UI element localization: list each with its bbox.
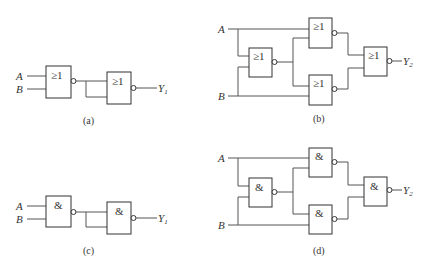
input-a-label: A <box>217 152 225 164</box>
caption-a: (a) <box>83 115 94 127</box>
logic-diagrams: A B ≥1 ≥1 Y1 (a) A B ≥1 ≥1 ≥1 <box>0 0 425 269</box>
gate-symbol: ≥1 <box>313 20 325 32</box>
caption-b: (b) <box>313 113 325 125</box>
diagram-a: A B ≥1 ≥1 Y1 (a) <box>15 66 168 127</box>
gate-symbol: & <box>315 207 324 219</box>
inversion-bubble <box>387 59 392 64</box>
output-label: Y2 <box>403 184 413 198</box>
output-label: Y1 <box>158 212 168 226</box>
gate-symbol: ≥1 <box>253 50 265 62</box>
inversion-bubble <box>332 87 337 92</box>
inversion-bubble <box>272 190 277 195</box>
gate-symbol: & <box>54 199 63 211</box>
diagram-d: A B & & & & Y2 (d) <box>217 148 413 257</box>
gate-symbol: & <box>370 180 379 192</box>
output-label: Y1 <box>158 82 168 96</box>
input-b-label: B <box>16 213 23 225</box>
caption-d: (d) <box>313 245 325 257</box>
input-b-label: B <box>218 90 225 102</box>
gate-symbol: & <box>115 205 124 217</box>
inversion-bubble <box>71 79 76 84</box>
input-b-label: B <box>218 219 225 231</box>
diagram-b: A B ≥1 ≥1 ≥1 ≥1 Y2 (b) <box>217 18 413 125</box>
gate-symbol: ≥1 <box>313 77 325 89</box>
inversion-bubble <box>387 188 392 193</box>
gate-symbol: & <box>315 150 324 162</box>
gate-symbol: ≥1 <box>112 75 124 87</box>
inversion-bubble <box>71 210 76 215</box>
inversion-bubble <box>332 160 337 165</box>
diagram-c: A B & & Y1 (c) <box>15 196 168 257</box>
inversion-bubble <box>272 60 277 65</box>
inversion-bubble <box>131 216 136 221</box>
input-b-label: B <box>16 83 23 95</box>
inversion-bubble <box>332 217 337 222</box>
gate-symbol: ≥1 <box>51 69 63 81</box>
input-a-label: A <box>15 200 23 212</box>
gate-symbol: ≥1 <box>368 49 380 61</box>
input-a-label: A <box>15 70 23 82</box>
input-a-label: A <box>217 23 225 35</box>
caption-c: (c) <box>83 245 94 257</box>
inversion-bubble <box>131 86 136 91</box>
inversion-bubble <box>332 31 337 36</box>
gate-symbol: & <box>255 181 264 193</box>
output-label: Y2 <box>403 55 413 69</box>
